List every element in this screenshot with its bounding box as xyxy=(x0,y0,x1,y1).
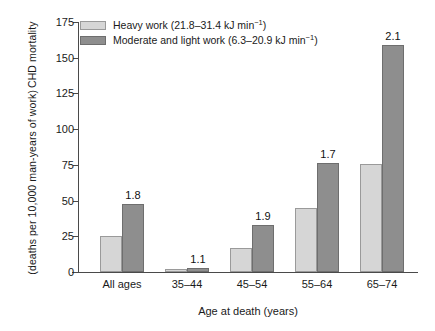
bar-value-label: 1.9 xyxy=(255,210,270,222)
bar-heavy-work xyxy=(100,236,122,272)
y-axis-title: (deaths per 10,000 man-years of work) CH… xyxy=(14,18,50,278)
y-tick-label: 75 xyxy=(62,159,74,171)
y-tick-label: 0 xyxy=(68,266,74,278)
y-axis-title-line2: (deaths per 10,000 man-years of work) xyxy=(26,90,38,275)
y-axis-line xyxy=(78,22,79,272)
y-tick-label: 25 xyxy=(62,230,74,242)
y-tick-label: 150 xyxy=(56,52,74,64)
bar-value-label: 1.8 xyxy=(125,189,140,201)
x-category-label: 45–54 xyxy=(237,278,268,290)
bar-heavy-work xyxy=(165,269,187,272)
y-tick-label: 50 xyxy=(62,195,74,207)
x-axis-title: Age at death (years) xyxy=(78,305,418,317)
bar-moderate-light-work xyxy=(382,45,404,272)
bar-moderate-light-work xyxy=(122,204,144,272)
y-tick-label: 125 xyxy=(56,87,74,99)
bar-moderate-light-work xyxy=(317,163,339,272)
bar-heavy-work xyxy=(295,208,317,272)
chd-mortality-bar-chart: (deaths per 10,000 man-years of work) CH… xyxy=(0,0,435,331)
y-axis-title-line1: CHD mortality xyxy=(26,21,38,88)
bar-value-label: 1.7 xyxy=(320,148,335,160)
bar-value-label: 1.1 xyxy=(190,253,205,265)
x-category-label: All ages xyxy=(102,278,141,290)
plot-area: 0255075100125150175 1.81.11.91.72.1 All … xyxy=(78,22,418,272)
bar-moderate-light-work xyxy=(252,225,274,272)
x-category-label: 65–74 xyxy=(367,278,398,290)
bar-value-label: 2.1 xyxy=(385,30,400,42)
y-tick-label: 100 xyxy=(56,123,74,135)
x-category-label: 55–64 xyxy=(302,278,333,290)
y-tick-label: 175 xyxy=(56,16,74,28)
bar-heavy-work xyxy=(360,164,382,272)
x-axis-line xyxy=(72,272,418,273)
bar-heavy-work xyxy=(230,248,252,272)
x-category-label: 35–44 xyxy=(172,278,203,290)
bar-moderate-light-work xyxy=(187,268,209,272)
